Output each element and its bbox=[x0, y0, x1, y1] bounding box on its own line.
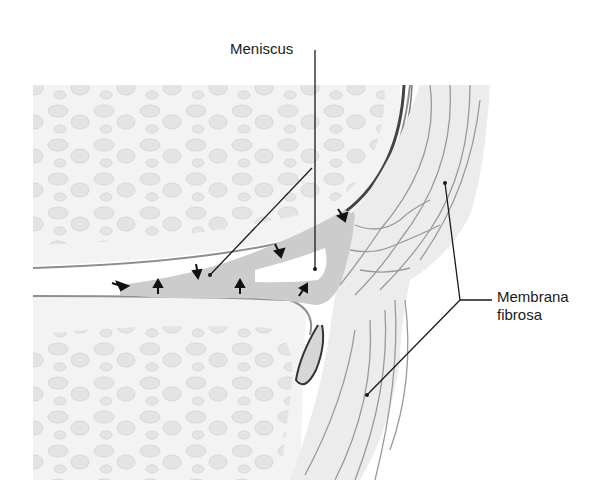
membrana-fibrosa-label-line2: fibrosa bbox=[497, 306, 569, 324]
membrana-fibrosa-label: Membrana fibrosa bbox=[497, 288, 569, 324]
knee-joint-diagram bbox=[0, 0, 616, 500]
meniscus-label: Meniscus bbox=[230, 40, 293, 58]
lower-bone bbox=[33, 296, 311, 480]
membrana-fibrosa-label-line1: Membrana bbox=[497, 288, 569, 306]
